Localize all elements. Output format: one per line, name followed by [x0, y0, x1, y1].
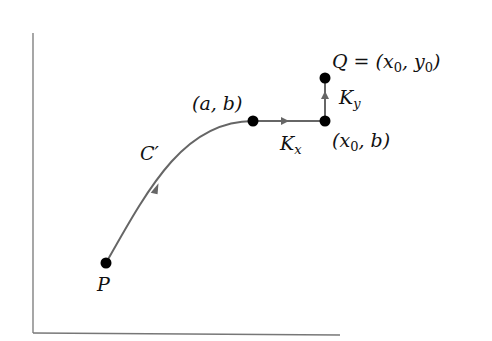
- label-c-prime: C′: [140, 142, 160, 164]
- label-a-b: (a, b): [192, 92, 242, 114]
- label-p: P: [96, 273, 111, 295]
- point-q: [320, 73, 331, 84]
- point-p: [101, 258, 112, 269]
- x-axis: [33, 333, 340, 335]
- label-kx: Kx: [279, 132, 302, 157]
- point-x0-b: [320, 116, 331, 127]
- label-q: Q = (x0, y0): [332, 50, 441, 75]
- label-x0-b: (x0, b): [332, 129, 390, 154]
- point-a-b: [248, 116, 259, 127]
- label-ky: Ky: [338, 86, 361, 111]
- curve-c-prime: [106, 121, 253, 263]
- arrow-ky-icon: [321, 91, 329, 99]
- arrow-kx-icon: [281, 117, 289, 125]
- diagram-canvas: P C′ (a, b) Kx Ky (x0, b) Q = (x0, y0): [0, 0, 492, 341]
